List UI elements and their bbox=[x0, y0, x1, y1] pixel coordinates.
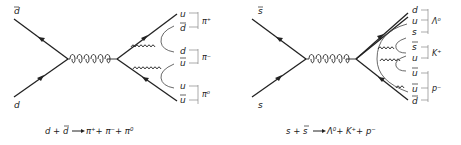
arrow-icon bbox=[81, 129, 85, 133]
hadron-label-pi-minus: π⁻ bbox=[202, 53, 211, 62]
quark-label: u bbox=[180, 81, 186, 91]
label-in-top: s bbox=[258, 6, 263, 16]
svg-text:π⁺+ π⁻+ π⁰: π⁺+ π⁻+ π⁰ bbox=[86, 126, 134, 136]
reaction-equation: s + s Λ⁰+ K⁺+ p⁻ bbox=[286, 126, 376, 136]
quark-label: u bbox=[412, 68, 418, 78]
gluon-propagator bbox=[306, 55, 356, 63]
diagram-pion-production: d d u d d u u u bbox=[14, 6, 211, 136]
quark-label: u bbox=[180, 58, 186, 68]
quark-label: u bbox=[180, 95, 186, 105]
label-in-bottom: s bbox=[258, 100, 263, 110]
hadron-label-p-minus: p⁻ bbox=[431, 84, 441, 93]
quark-label: d bbox=[180, 46, 186, 56]
label-in-top: d bbox=[14, 6, 20, 16]
hadron-label-pi-zero: π⁰ bbox=[202, 90, 211, 99]
svg-text:d + d: d + d bbox=[45, 126, 69, 136]
quark-label: u bbox=[412, 84, 418, 94]
hadron-label-pi-plus: π⁺ bbox=[202, 17, 211, 26]
quark-label: u bbox=[412, 16, 418, 26]
quark-label: d bbox=[412, 5, 418, 15]
diagram-strange-baryon-production: s s d u s s u u u bbox=[252, 5, 441, 136]
svg-text:s + s: s + s bbox=[286, 126, 308, 136]
hadron-label-kaon: K⁺ bbox=[432, 49, 441, 58]
arrow-icon bbox=[322, 129, 326, 133]
svg-text:Λ⁰+ K⁺+ p⁻: Λ⁰+ K⁺+ p⁻ bbox=[326, 126, 376, 136]
quark-label: s bbox=[412, 27, 417, 37]
hadron-label-lambda: Λ⁰ bbox=[431, 17, 441, 26]
quark-label: d bbox=[412, 96, 418, 106]
gluon-propagator bbox=[68, 55, 117, 63]
quark-label: u bbox=[412, 53, 418, 63]
label-in-bottom: d bbox=[14, 100, 20, 110]
feynman-diagrams: d d u d d u u u bbox=[0, 0, 461, 145]
reaction-equation: d + d π⁺+ π⁻+ π⁰ bbox=[45, 126, 134, 136]
quark-label: u bbox=[180, 9, 186, 19]
quark-label: d bbox=[180, 23, 186, 33]
quark-label: s bbox=[412, 42, 417, 52]
